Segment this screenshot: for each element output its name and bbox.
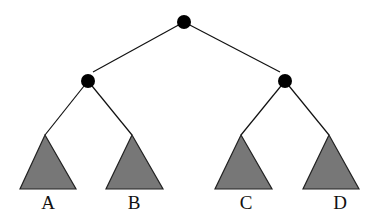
tree-nodes xyxy=(81,15,292,88)
edge-right-C xyxy=(241,81,285,135)
edge-right-D xyxy=(285,81,329,135)
subtrees xyxy=(20,135,359,189)
subtree-label-d: D xyxy=(333,192,347,213)
edge-root-left xyxy=(93,22,184,72)
subtree-label-b: B xyxy=(128,192,141,213)
subtree-triangle-c xyxy=(215,135,272,189)
subtree-label-c: C xyxy=(240,192,253,213)
tree-node-root xyxy=(177,15,191,29)
subtree-triangle-a xyxy=(20,135,76,189)
binary-tree-diagram: ABCD xyxy=(0,0,380,217)
subtree-labels: ABCD xyxy=(41,192,347,213)
tree-node-left xyxy=(81,74,95,88)
edge-root-right xyxy=(184,22,280,72)
subtree-triangle-b xyxy=(106,135,163,189)
edge-left-B xyxy=(88,81,132,135)
edge-left-A xyxy=(45,81,88,135)
tree-node-right xyxy=(278,74,292,88)
subtree-label-a: A xyxy=(41,192,55,213)
subtree-triangle-d xyxy=(303,135,359,189)
